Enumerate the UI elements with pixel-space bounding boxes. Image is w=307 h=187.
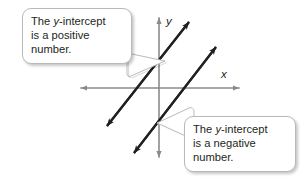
callout-positive-line1-pre: The <box>31 15 53 27</box>
callout-positive-intercept: The y-intercept is a positive number. <box>22 8 132 64</box>
callout-negative-line-1: The y-intercept <box>193 122 287 136</box>
callout-negative-line1-post: -intercept <box>221 123 268 135</box>
x-axis-label: x <box>221 68 227 80</box>
callout-negative-line-3: number. <box>193 150 287 164</box>
callout-positive-line-3: number. <box>31 42 123 56</box>
callout-positive-line-2: is a positive <box>31 28 123 42</box>
graph-figure: y x The y-intercept is a positive number… <box>0 0 307 187</box>
callout-positive-tail <box>126 44 168 78</box>
callout-positive-line1-post: -intercept <box>59 15 106 27</box>
callout-negative-intercept: The y-intercept is a negative number. <box>184 116 296 172</box>
callout-positive-line-1: The y-intercept <box>31 14 123 28</box>
callout-negative-line-2: is a negative <box>193 136 287 150</box>
y-axis-label: y <box>166 15 172 27</box>
callout-negative-line1-pre: The <box>193 123 215 135</box>
